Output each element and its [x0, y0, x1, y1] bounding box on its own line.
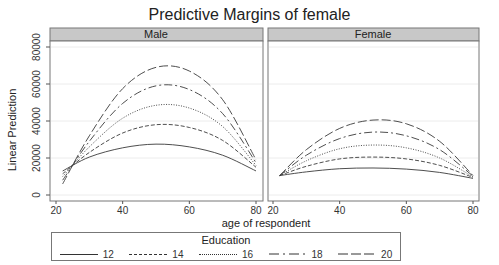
svg-text:60: 60 — [184, 205, 196, 216]
legend-line-longdash-dot-icon — [269, 252, 307, 256]
legend: Education 12 14 16 18 20 — [51, 232, 401, 261]
svg-text:40000: 40000 — [31, 107, 42, 135]
legend-label: 14 — [172, 249, 183, 260]
panel-female-strip-label: Female — [355, 28, 392, 40]
x-ticks-male: 20406080 — [50, 201, 262, 216]
svg-text:0: 0 — [31, 192, 42, 198]
legend-label: 12 — [103, 249, 114, 260]
svg-text:60000: 60000 — [31, 70, 42, 98]
svg-text:80: 80 — [467, 205, 479, 216]
legend-line-dash-icon — [129, 254, 167, 255]
svg-text:20: 20 — [267, 205, 279, 216]
legend-label: 20 — [381, 249, 392, 260]
legend-item-16: 16 — [199, 249, 253, 260]
svg-text:60: 60 — [401, 205, 413, 216]
y-ticks: 020000400006000080000 — [31, 33, 50, 198]
legend-label: 18 — [312, 249, 323, 260]
legend-line-dot-icon — [199, 254, 237, 255]
svg-text:80: 80 — [250, 205, 262, 216]
legend-item-14: 14 — [129, 249, 183, 260]
svg-text:80000: 80000 — [31, 33, 42, 61]
x-ticks-female: 20406080 — [267, 201, 479, 216]
legend-item-12: 12 — [60, 249, 114, 260]
svg-text:40: 40 — [334, 205, 346, 216]
legend-item-20: 20 — [338, 249, 392, 260]
chart-canvas: Linear Prediction age of respondent Male… — [0, 0, 499, 232]
panel-male: Male 20406080 020000400006000080000 — [31, 28, 263, 216]
panel-female: Female 20406080 — [267, 28, 479, 216]
svg-text:20000: 20000 — [31, 144, 42, 172]
legend-line-solid-icon — [60, 254, 98, 255]
y-axis-label: Linear Prediction — [6, 89, 18, 172]
x-axis-label: age of respondent — [222, 217, 311, 229]
svg-text:40: 40 — [117, 205, 129, 216]
svg-text:20: 20 — [50, 205, 62, 216]
legend-label: 16 — [242, 249, 253, 260]
panel-male-strip-label: Male — [144, 28, 168, 40]
legend-item-18: 18 — [269, 249, 323, 260]
legend-title: Education — [52, 234, 400, 246]
legend-items: 12 14 16 18 20 — [52, 248, 400, 260]
legend-line-longdash-icon — [338, 252, 376, 256]
